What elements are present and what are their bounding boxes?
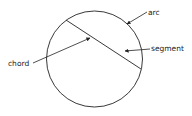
segment-arrow [125,49,150,51]
chord-line [66,20,141,69]
circle-diagram: arc segment chord [0,0,192,116]
arc-arrow [127,12,147,24]
arc-label: arc [148,8,160,17]
chord-label: chord [8,59,29,68]
circle-outline [47,11,143,107]
chord-arrow [33,38,90,63]
segment-label: segment [151,44,184,53]
